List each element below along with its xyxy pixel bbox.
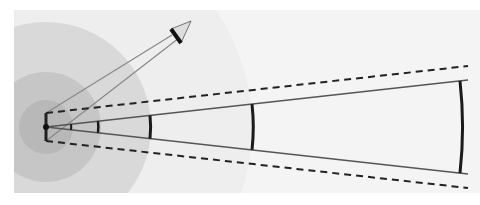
diagram-canvas	[0, 0, 480, 205]
origin-dot	[43, 124, 49, 130]
wavefront-arc	[150, 115, 151, 138]
beam-diagram	[0, 0, 480, 205]
coverage-zones	[0, 0, 252, 205]
wavefront-arc	[252, 104, 253, 150]
